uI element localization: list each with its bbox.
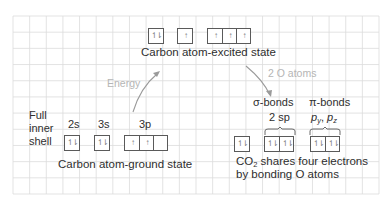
co2-p-orbitals: ↿⇂↿⇂	[310, 136, 340, 152]
orbital-cell-paired: ↿⇂	[279, 137, 293, 151]
co2-caption-rest: shares four electrons	[257, 155, 368, 167]
co2-formula-co: CO	[236, 155, 253, 167]
paired-electrons-icon: ↿⇂	[282, 137, 292, 151]
paired-electrons-icon: ↿⇂	[237, 137, 247, 151]
paired-electrons-icon: ↿⇂	[313, 137, 323, 151]
orbital-cell-paired: ↿⇂	[235, 137, 249, 151]
co2-sp-orbitals: ↿⇂↿⇂	[264, 136, 294, 152]
sigma-brace	[265, 127, 295, 135]
orbital-cell-paired: ↿⇂	[265, 137, 279, 151]
orbital-cell-paired: ↿⇂	[311, 137, 325, 151]
paired-electrons-icon: ↿⇂	[328, 137, 338, 151]
pi-brace	[310, 127, 340, 135]
co2-caption-line1: CO2 shares four electrons	[236, 155, 368, 169]
orbital-cell-paired: ↿⇂	[325, 137, 339, 151]
co2-caption-line2: by bonding O atoms	[236, 168, 339, 180]
co2-2s-orbital: ↿⇂	[234, 136, 250, 152]
paired-electrons-icon: ↿⇂	[267, 137, 277, 151]
